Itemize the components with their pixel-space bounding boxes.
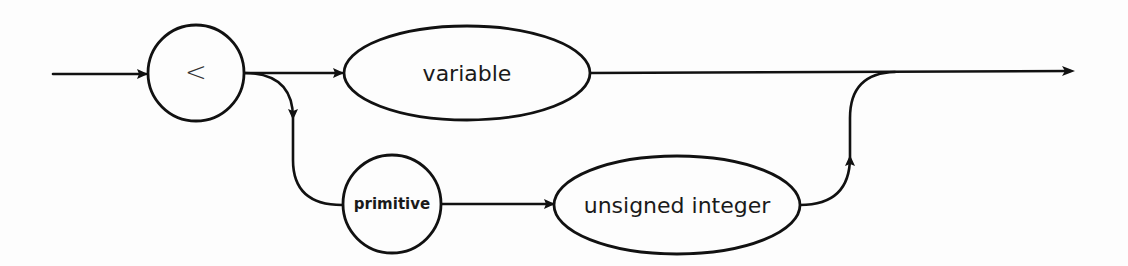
connector-lt-to-primitive — [244, 73, 342, 205]
node-variable-label: variable — [423, 61, 512, 86]
connector-variable-to-exit — [590, 66, 1075, 76]
syntax-diagram: < variable primitive unsigned integer — [0, 0, 1128, 266]
connector-primitive-to-unsigned-integer — [441, 199, 555, 209]
node-primitive: primitive — [343, 155, 441, 253]
node-less-than: < — [148, 25, 244, 121]
node-unsigned-integer-label: unsigned integer — [584, 193, 772, 218]
node-primitive-label: primitive — [354, 195, 430, 213]
entry-connector — [53, 69, 148, 79]
node-unsigned-integer: unsigned integer — [554, 156, 800, 254]
connector-unsigned-integer-to-exit — [800, 72, 895, 205]
node-less-than-label: < — [185, 57, 207, 87]
node-variable: variable — [344, 26, 590, 120]
